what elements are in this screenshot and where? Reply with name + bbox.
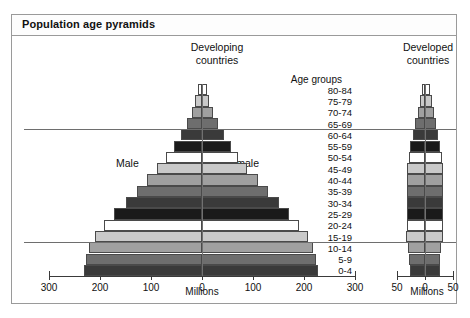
bar-female-45-49: [202, 163, 247, 174]
bar-male-0-4: [84, 265, 202, 276]
axis-end-tick: [397, 271, 398, 276]
bar-female-30-34: [202, 197, 279, 208]
bar-female-55-59: [425, 141, 440, 152]
age-group-label-45-49: 45-49: [300, 165, 352, 175]
x-tick: [355, 276, 356, 280]
age-group-label-80-84: 80-84: [300, 86, 352, 96]
bar-male-40-44: [407, 174, 425, 185]
panel-heading-developing: Developing countries: [162, 41, 272, 66]
bar-female-10-14: [425, 242, 441, 253]
bar-female-0-4: [425, 265, 440, 276]
bar-male-65-69: [415, 118, 425, 129]
bar-female-40-44: [425, 174, 443, 185]
bar-male-50-54: [409, 152, 425, 163]
bar-female-75-79: [202, 95, 209, 106]
figure-title-bar: Population age pyramids: [12, 15, 456, 36]
bar-female-20-24: [202, 220, 299, 231]
x-tick: [453, 276, 454, 280]
reference-line-1: [24, 129, 456, 130]
age-group-label-0-4: 0-4: [300, 266, 352, 276]
center-axis-line: [425, 84, 426, 276]
x-tick: [425, 276, 426, 280]
bar-female-65-69: [202, 118, 218, 129]
bar-female-65-69: [425, 118, 436, 129]
axis-end-tick: [49, 271, 50, 276]
page-title: Population age pyramids: [22, 18, 155, 30]
age-group-label-55-59: 55-59: [300, 142, 352, 152]
bar-male-20-24: [407, 220, 425, 231]
series-label-male: Male: [116, 157, 139, 169]
age-group-label-40-44: 40-44: [300, 176, 352, 186]
bar-female-5-9: [425, 254, 440, 265]
bar-female-25-29: [202, 208, 289, 219]
bar-female-50-54: [425, 152, 442, 163]
axis-end-tick: [453, 271, 454, 276]
age-group-label-10-14: 10-14: [300, 244, 352, 254]
age-group-label-20-24: 20-24: [300, 221, 352, 231]
axis-title-developed: Millions: [372, 286, 470, 297]
bar-male-55-59: [410, 141, 425, 152]
figure-frame: Population age pyramids Developing count…: [11, 14, 457, 304]
age-group-label-65-69: 65-69: [300, 120, 352, 130]
bar-female-30-34: [425, 197, 443, 208]
bar-female-15-19: [425, 231, 443, 242]
bar-male-60-64: [413, 129, 425, 140]
bar-female-20-24: [425, 220, 443, 231]
bar-male-45-49: [407, 163, 425, 174]
x-tick-label: 200: [282, 282, 326, 293]
bar-male-25-29: [407, 208, 425, 219]
bar-male-25-29: [114, 208, 202, 219]
bar-male-35-39: [407, 186, 425, 197]
age-group-label-25-29: 25-29: [300, 210, 352, 220]
bar-male-65-69: [187, 118, 202, 129]
bar-male-10-14: [89, 242, 202, 253]
bar-male-5-9: [86, 254, 202, 265]
x-tick: [151, 276, 152, 280]
age-group-label-30-34: 30-34: [300, 199, 352, 209]
age-group-label-70-74: 70-74: [300, 108, 352, 118]
age-group-label-5-9: 5-9: [300, 255, 352, 265]
reference-line-2: [24, 242, 456, 243]
age-group-label-50-54: 50-54: [300, 153, 352, 163]
bar-male-15-19: [95, 231, 202, 242]
bar-female-55-59: [202, 141, 231, 152]
x-tick: [304, 276, 305, 280]
x-tick-label: 300: [333, 282, 377, 293]
x-tick-label: 200: [78, 282, 122, 293]
bar-male-5-9: [409, 254, 425, 265]
plot-area: Developing countries Developed countries…: [12, 36, 456, 304]
bar-male-20-24: [104, 220, 202, 231]
bar-female-70-74: [425, 107, 434, 118]
bar-male-0-4: [410, 265, 425, 276]
bar-male-70-74: [192, 107, 202, 118]
axis-title-developing: Millions: [140, 286, 264, 297]
bar-male-45-49: [157, 163, 202, 174]
x-tick: [397, 276, 398, 280]
bar-female-75-79: [425, 95, 432, 106]
bar-female-10-14: [202, 242, 313, 253]
age-group-label-60-64: 60-64: [300, 131, 352, 141]
bar-female-60-64: [425, 129, 438, 140]
axis-end-tick: [355, 271, 356, 276]
x-tick: [49, 276, 50, 280]
bar-female-45-49: [425, 163, 443, 174]
x-tick: [202, 276, 203, 280]
bar-female-60-64: [202, 129, 224, 140]
age-group-label-75-79: 75-79: [300, 97, 352, 107]
x-tick: [253, 276, 254, 280]
bar-male-35-39: [137, 186, 202, 197]
age-group-label-35-39: 35-39: [300, 187, 352, 197]
bar-female-35-39: [425, 186, 443, 197]
bar-male-30-34: [407, 197, 425, 208]
x-tick: [100, 276, 101, 280]
panel-heading-developed: Developed countries: [380, 41, 470, 66]
bar-female-70-74: [202, 107, 213, 118]
bar-male-15-19: [406, 231, 425, 242]
bar-male-30-34: [126, 197, 203, 208]
bar-male-75-79: [195, 95, 202, 106]
bar-male-40-44: [147, 174, 202, 185]
bar-female-50-54: [202, 152, 238, 163]
center-axis-line: [202, 84, 203, 276]
bar-female-15-19: [202, 231, 308, 242]
age-group-label-15-19: 15-19: [300, 233, 352, 243]
